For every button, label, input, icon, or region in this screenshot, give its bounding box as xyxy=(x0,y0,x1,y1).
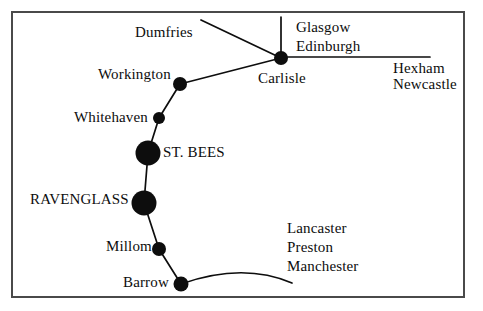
station-label-carlisle: Carlisle xyxy=(258,71,306,86)
station-nodes xyxy=(132,51,289,292)
station-node-barrow[interactable] xyxy=(174,277,189,292)
line-carlisle-to-dumfries xyxy=(201,20,281,58)
destination-label-preston: Preston xyxy=(287,240,333,255)
station-label-barrow: Barrow xyxy=(123,275,169,290)
station-label-millom: Millom xyxy=(106,239,152,254)
destination-label-newcastle: Newcastle xyxy=(393,77,457,92)
station-label-whitehaven: Whitehaven xyxy=(74,110,148,125)
station-label-ravenglass: RAVENGLASS xyxy=(30,192,129,207)
destination-label-hexham: Hexham xyxy=(393,61,445,76)
station-label-workington: Workington xyxy=(98,67,171,82)
destination-label-dumfries: Dumfries xyxy=(135,25,193,40)
station-label-st-bees: ST. BEES xyxy=(163,145,225,160)
station-node-ravenglass[interactable] xyxy=(132,191,157,216)
station-node-workington[interactable] xyxy=(173,77,187,91)
rail-map-figure: Dumfries Glasgow Edinburgh Hexham Newcas… xyxy=(0,0,483,311)
destination-label-glasgow: Glasgow xyxy=(296,20,350,35)
figure-border xyxy=(12,12,464,297)
destination-label-lancaster: Lancaster xyxy=(287,221,347,236)
rail-map-canvas xyxy=(0,0,483,311)
station-node-millom[interactable] xyxy=(152,242,166,256)
station-node-carlisle[interactable] xyxy=(274,51,288,65)
destination-label-edinburgh: Edinburgh xyxy=(296,39,360,54)
station-node-whitehaven[interactable] xyxy=(153,112,165,124)
station-node-st-bees[interactable] xyxy=(136,141,161,166)
destination-label-manchester: Manchester xyxy=(287,259,358,274)
line-barrow-to-lancaster-preston-manchester xyxy=(181,273,292,284)
